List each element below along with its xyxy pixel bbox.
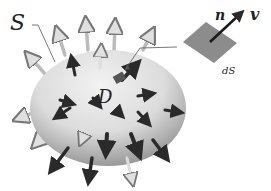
surface-label: S: [10, 10, 25, 35]
surface-element-patch: [183, 22, 237, 63]
region-label: D: [97, 86, 113, 107]
divergence-diagram: S D dS n v: [0, 0, 271, 191]
diagram-canvas: S D dS n v: [0, 0, 271, 191]
surface-leader-line: [32, 25, 55, 62]
element-label: dS: [222, 65, 235, 76]
velocity-label: v: [250, 5, 260, 24]
normal-label: n: [215, 7, 225, 23]
